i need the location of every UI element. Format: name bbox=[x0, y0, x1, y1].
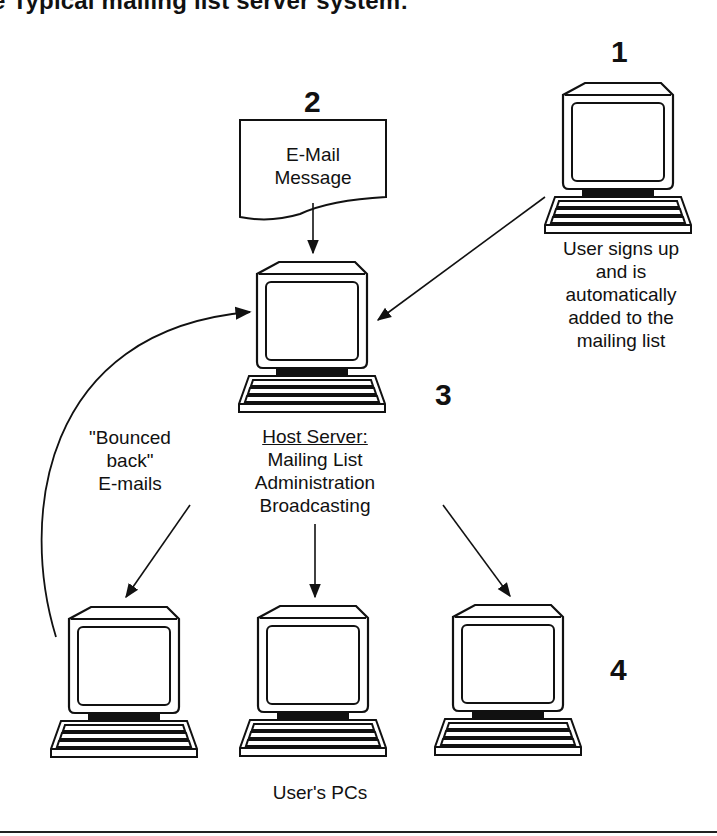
bounced-line-2: back" bbox=[60, 449, 200, 472]
user-pc-middle-icon bbox=[240, 606, 386, 756]
step-number-4: 4 bbox=[610, 655, 627, 685]
bounced-emails-label: "Bounced back" E-mails bbox=[60, 426, 200, 495]
arrow-subscriber-to-server bbox=[378, 197, 545, 320]
user-pc-right-icon bbox=[435, 605, 581, 755]
email-label-line-2: Message bbox=[240, 166, 386, 189]
user-pcs-caption: User's PCs bbox=[240, 781, 400, 804]
bounced-line-3: E-mails bbox=[60, 472, 200, 495]
host-server-computer-icon bbox=[239, 262, 385, 412]
email-label-line-1: E-Mail bbox=[240, 143, 386, 166]
arrow-server-to-left-pc bbox=[126, 505, 190, 597]
step-number-3: 3 bbox=[435, 380, 452, 410]
subscriber-line-2: and is bbox=[526, 260, 716, 283]
diagram-canvas bbox=[0, 0, 717, 836]
step-number-2: 2 bbox=[304, 87, 321, 117]
host-server-line-3: Broadcasting bbox=[220, 494, 410, 517]
subscriber-line-5: mailing list bbox=[526, 329, 716, 352]
step-number-1: 1 bbox=[611, 37, 628, 67]
subscriber-line-4: added to the bbox=[526, 306, 716, 329]
host-server-line-2: Administration bbox=[220, 471, 410, 494]
host-server-line-1: Mailing List bbox=[220, 448, 410, 471]
user-pc-left-icon bbox=[51, 607, 197, 757]
bounced-line-1: "Bounced bbox=[60, 426, 200, 449]
host-server-heading: Host Server: bbox=[220, 425, 410, 448]
subscriber-line-1: User signs up bbox=[526, 237, 716, 260]
host-server-description: Host Server: Mailing List Administration… bbox=[220, 425, 410, 517]
arrow-server-to-right-pc bbox=[443, 505, 510, 596]
subscriber-description: User signs up and is automatically added… bbox=[526, 237, 716, 352]
subscriber-line-3: automatically bbox=[526, 283, 716, 306]
bottom-divider bbox=[0, 831, 717, 833]
subscriber-computer-icon bbox=[545, 83, 691, 233]
email-message-label: E-Mail Message bbox=[240, 143, 386, 189]
